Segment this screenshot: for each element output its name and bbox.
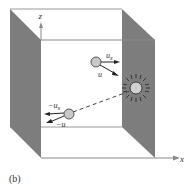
u-arrowhead <box>112 71 119 76</box>
ux-arrowhead <box>114 60 120 64</box>
upper-u-label: u <box>98 70 102 79</box>
lower-ux-label: −ux <box>48 101 60 111</box>
upper-ball <box>91 57 101 67</box>
lower-ball <box>64 109 74 119</box>
neg-ux-arrowhead <box>44 112 50 116</box>
x-axis-label: x <box>179 154 184 164</box>
neg-u-arrowhead <box>46 119 53 123</box>
trajectory-dashed-line <box>73 91 130 112</box>
z-axis-label: z <box>38 11 43 21</box>
particle-in-box-diagram: z x ux u <box>0 0 190 187</box>
upper-ux-label: ux <box>106 51 113 61</box>
x-axis-arrowhead <box>173 156 180 161</box>
lower-u-label: −u <box>56 120 65 129</box>
z-axis-arrowhead <box>39 22 43 28</box>
figure-caption: (b) <box>9 173 21 185</box>
left-wall <box>10 9 41 158</box>
